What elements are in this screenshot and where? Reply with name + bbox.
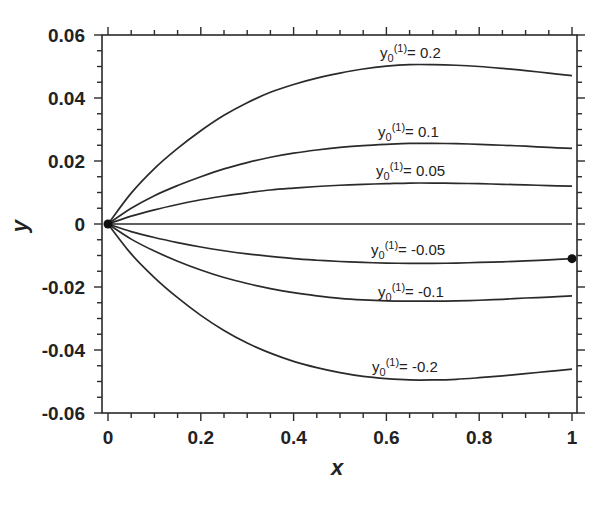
y-tick-label: -0.04 (42, 340, 86, 361)
x-tick-label: 0.2 (188, 427, 214, 448)
y-tick-labels: 0.060.040.020-0.02-0.04-0.06 (42, 25, 86, 424)
x-tick-label: 0.6 (373, 427, 399, 448)
x-tick-label: 0.4 (280, 427, 307, 448)
x-tick-labels: 00.20.40.60.81 (103, 427, 578, 448)
y-tick-label: -0.02 (42, 277, 85, 298)
y-tick-label: 0.06 (48, 25, 85, 46)
data-curves (108, 64, 572, 380)
y-axis-title: y (7, 218, 32, 233)
curve-line (108, 224, 572, 380)
curve-label: y0(1)= -0.05 (371, 239, 445, 261)
y-tick-label: 0 (74, 214, 85, 235)
curve-line (108, 183, 572, 224)
curve-label: y0(1)= -0.1 (378, 281, 444, 303)
x-tick-label: 0 (103, 427, 114, 448)
curve-label: y0(1)= 0.2 (380, 42, 441, 64)
curve-line (108, 224, 572, 263)
y-tick-label: -0.06 (42, 403, 85, 424)
y-tick-label: 0.04 (48, 88, 85, 109)
x-tick-label: 1 (567, 427, 578, 448)
x-tick-label: 0.8 (466, 427, 492, 448)
curve-label: y0(1)= 0.05 (376, 160, 445, 182)
curve-label: y0(1)= -0.2 (372, 356, 438, 378)
y-tick-label: 0.02 (48, 151, 85, 172)
curve-labels: y0(1)= 0.2y0(1)= 0.1y0(1)= 0.05y0(1)= -0… (371, 42, 445, 378)
curve-line (108, 64, 572, 224)
chart-figure: 00.20.40.60.81 0.060.040.020-0.02-0.04-0… (0, 0, 610, 507)
point-marker (104, 220, 113, 229)
point-marker (568, 254, 577, 263)
x-axis-title: x (330, 455, 344, 480)
curve-label: y0(1)= 0.1 (378, 121, 439, 143)
